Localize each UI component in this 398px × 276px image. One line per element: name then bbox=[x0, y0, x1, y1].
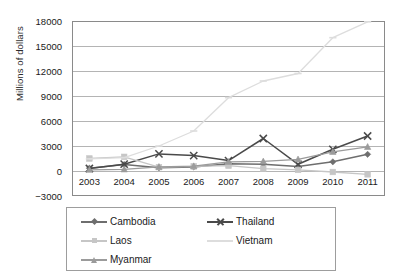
legend-swatch-vietnam bbox=[207, 236, 233, 246]
y-tick-label: 12000 bbox=[18, 66, 62, 77]
diamond-marker-icon bbox=[90, 218, 97, 225]
x-tick-label: 2011 bbox=[348, 176, 388, 187]
legend-item-thailand[interactable]: Thailand bbox=[207, 212, 274, 231]
legend-item-myanmar[interactable]: Myanmar bbox=[81, 250, 152, 269]
legend-swatch-laos bbox=[81, 236, 107, 246]
legend-item-cambodia[interactable]: Cambodia bbox=[81, 212, 156, 231]
legend-label: Cambodia bbox=[110, 212, 156, 231]
legend-label: Myanmar bbox=[110, 250, 152, 269]
y-tick-label: 3000 bbox=[18, 141, 62, 152]
x-marker-icon bbox=[216, 217, 225, 226]
chart-legend: CambodiaThailandLaosVietnamMyanmar bbox=[66, 207, 336, 271]
y-axis-tick-labels: 1800015000120009000600030000−3000 bbox=[14, 0, 62, 276]
y-tick-label: −3000 bbox=[18, 191, 62, 202]
line-chart: Millions of dollars 18000150001200090006… bbox=[0, 0, 398, 276]
legend-item-laos[interactable]: Laos bbox=[81, 231, 132, 250]
y-tick-label: 6000 bbox=[18, 116, 62, 127]
legend-label: Vietnam bbox=[236, 231, 273, 250]
y-tick-label: 18000 bbox=[18, 16, 62, 27]
legend-swatch-cambodia bbox=[81, 217, 107, 227]
y-tick-label: 9000 bbox=[18, 91, 62, 102]
y-tick-label: 0 bbox=[18, 166, 62, 177]
legend-label: Laos bbox=[110, 231, 132, 250]
triangle-marker-icon bbox=[91, 257, 97, 263]
dash-marker-icon bbox=[213, 240, 227, 242]
legend-item-vietnam[interactable]: Vietnam bbox=[207, 231, 273, 250]
legend-label: Thailand bbox=[236, 212, 274, 231]
legend-swatch-thailand bbox=[207, 217, 233, 227]
y-tick-label: 15000 bbox=[18, 41, 62, 52]
square-marker-icon bbox=[92, 238, 97, 243]
legend-swatch-myanmar bbox=[81, 255, 107, 265]
